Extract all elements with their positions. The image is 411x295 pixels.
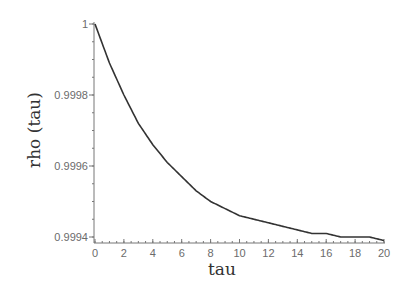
y-axis: 0.99940.99960.99981: [54, 18, 94, 243]
y-tick-label: 0.9996: [54, 160, 88, 172]
x-tick-label: 16: [320, 247, 332, 259]
x-tick-label: 14: [291, 247, 303, 259]
y-tick-label: 0.9994: [54, 231, 88, 243]
x-tick-label: 6: [179, 247, 185, 259]
x-tick-label: 2: [121, 247, 127, 259]
x-tick-label: 20: [378, 247, 390, 259]
data-curve: [95, 24, 384, 241]
x-tick-label: 18: [349, 247, 361, 259]
y-axis-title: rho (tau): [24, 92, 44, 168]
x-tick-label: 8: [208, 247, 214, 259]
x-tick-label: 10: [233, 247, 245, 259]
x-tick-label: 12: [262, 247, 274, 259]
x-tick-label: 0: [92, 247, 98, 259]
y-tick-label: 1: [82, 18, 88, 30]
chart: 0.99940.99960.99981 02468101214161820 ta…: [0, 0, 411, 295]
x-axis: 02468101214161820: [92, 239, 390, 259]
x-axis-title: tau: [208, 259, 236, 279]
y-tick-label: 0.9998: [54, 89, 88, 101]
x-tick-label: 4: [150, 247, 156, 259]
